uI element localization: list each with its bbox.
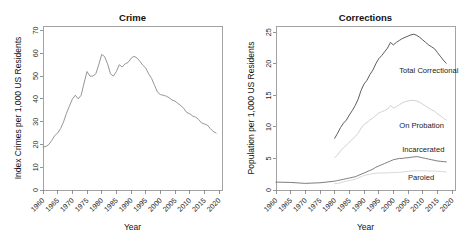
- chart-title: Crime: [119, 12, 146, 23]
- x-tick-label: 1970: [58, 196, 76, 214]
- chart-title: Corrections: [338, 12, 391, 23]
- chart-panel-corrections: Corrections0510152025Population per 1,00…: [233, 0, 465, 241]
- x-tick-label: 1995: [364, 196, 382, 214]
- x-tick-label: 2015: [423, 196, 441, 214]
- x-axis-title: Year: [124, 222, 141, 232]
- x-tick-label: 1975: [305, 196, 323, 214]
- y-tick-label: 25: [263, 28, 272, 36]
- y-tick-label: 50: [31, 72, 40, 80]
- y-tick-label: 5: [263, 156, 272, 160]
- x-tick-label: 2005: [393, 196, 411, 214]
- y-axis-title: Population per 1,000 US Residents: [246, 42, 256, 175]
- x-tick-label: 2000: [379, 196, 397, 214]
- series-label-total-correctional: Total Correctional: [399, 66, 458, 75]
- series-line-index-crime-rate: [43, 54, 216, 146]
- y-tick-label: 70: [31, 27, 40, 35]
- y-tick-label: 30: [31, 118, 40, 126]
- x-tick-label: 2020: [205, 196, 223, 214]
- x-axis-title: Year: [356, 222, 373, 232]
- x-tick-label: 1980: [87, 196, 105, 214]
- series-label-paroled: Paroled: [408, 173, 434, 182]
- y-tick-label: 60: [31, 49, 40, 57]
- y-tick-label: 40: [31, 95, 40, 103]
- y-tick-label: 10: [263, 123, 272, 131]
- y-tick-label: 15: [263, 91, 272, 99]
- x-tick-label: 1975: [73, 196, 91, 214]
- figure-container: Crime010203040506070Index Crimes per 1,0…: [0, 0, 465, 241]
- x-tick-label: 2010: [408, 196, 426, 214]
- chart-panel-crime: Crime010203040506070Index Crimes per 1,0…: [0, 0, 233, 241]
- x-tick-label: 1990: [117, 196, 135, 214]
- y-axis-title: Index Crimes per 1,000 US Residents: [13, 37, 23, 180]
- y-tick-label: 0: [263, 188, 272, 192]
- x-tick-label: 1965: [276, 196, 294, 214]
- x-tick-label: 2010: [175, 196, 193, 214]
- x-tick-label: 1985: [102, 196, 120, 214]
- x-tick-label: 1995: [131, 196, 149, 214]
- y-tick-label: 10: [31, 163, 40, 171]
- x-tick-label: 1985: [335, 196, 353, 214]
- x-tick-label: 2020: [437, 196, 455, 214]
- x-tick-label: 2000: [146, 196, 164, 214]
- x-tick-label: 1960: [261, 196, 279, 214]
- series-label-on-probation: On Probation: [399, 121, 444, 130]
- x-tick-label: 1970: [291, 196, 309, 214]
- x-tick-label: 1980: [320, 196, 338, 214]
- y-tick-label: 0: [31, 188, 40, 192]
- y-tick-label: 20: [263, 60, 272, 68]
- series-label-incarcerated: Incarcerated: [402, 145, 444, 154]
- plot-area-border: [43, 26, 222, 190]
- x-tick-label: 1965: [43, 196, 61, 214]
- x-tick-label: 2005: [161, 196, 179, 214]
- y-tick-label: 20: [31, 140, 40, 148]
- crime-chart-svg: Crime010203040506070Index Crimes per 1,0…: [0, 0, 233, 241]
- corrections-chart-svg: Corrections0510152025Population per 1,00…: [233, 0, 465, 241]
- x-tick-label: 1990: [349, 196, 367, 214]
- x-tick-label: 1960: [29, 196, 47, 214]
- x-tick-label: 2015: [190, 196, 208, 214]
